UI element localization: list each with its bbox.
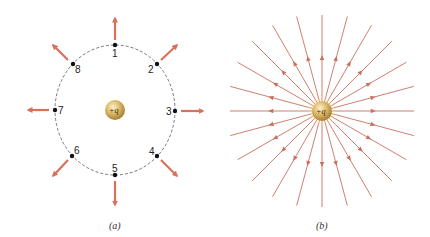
point-label: 6: [74, 145, 80, 156]
point-label: 8: [75, 64, 81, 75]
arrow-icon: [320, 55, 324, 60]
caption-a: (a): [109, 220, 121, 232]
point-1: [113, 43, 117, 47]
arrow-icon: [53, 160, 68, 176]
arrow-icon: [161, 45, 177, 60]
field-line: [273, 116, 319, 196]
point-label: 3: [166, 106, 172, 117]
charge-label-b: +q: [316, 107, 325, 116]
charge-label-a: +q: [109, 106, 118, 115]
point-3: [173, 109, 177, 113]
arrow-icon: [371, 109, 376, 113]
point-2: [155, 62, 159, 66]
field-line: [252, 115, 318, 181]
field-line: [326, 41, 392, 107]
panel-a: 1 2 3 4 5 6 7 8 +q (a): [28, 18, 203, 232]
point-label: 1: [112, 48, 118, 59]
point-label: 2: [148, 64, 154, 75]
point-4: [155, 154, 159, 158]
field-line: [252, 41, 318, 107]
point-label: 4: [149, 146, 155, 157]
field-line: [325, 25, 371, 105]
caption-b: (b): [316, 220, 328, 232]
field-line: [273, 25, 319, 105]
point-label: 5: [112, 163, 118, 174]
figure: 1 2 3 4 5 6 7 8 +q (a) +q (b): [0, 0, 430, 237]
arrow-icon: [320, 162, 324, 167]
field-line: [325, 116, 371, 196]
arrow-icon: [53, 45, 68, 60]
panel-b: +q (b): [230, 15, 414, 232]
point-7: [53, 108, 57, 112]
arrow-icon: [268, 109, 273, 113]
arrow-icon: [161, 160, 177, 176]
field-line: [326, 115, 392, 181]
point-label: 7: [58, 105, 64, 116]
